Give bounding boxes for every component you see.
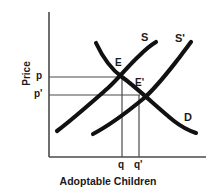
chart-canvas bbox=[0, 0, 216, 194]
y-tick-label-p: p bbox=[36, 71, 42, 81]
x-tick-label-q: q bbox=[118, 160, 124, 170]
supply-curve-label: S bbox=[141, 32, 148, 43]
demand-curve-label: D bbox=[184, 112, 192, 123]
y-axis-title: Price bbox=[21, 54, 32, 94]
x-tick-label-q-prime: q' bbox=[134, 160, 143, 170]
y-tick-label-p-prime: p' bbox=[34, 89, 43, 99]
x-axis-title: Adoptable Children bbox=[0, 175, 216, 187]
supply-demand-diagram: Price Adoptable Children p p' q q' S S' … bbox=[0, 0, 216, 194]
equilibrium-label-e-prime: E' bbox=[135, 78, 144, 88]
equilibrium-label-e: E bbox=[115, 58, 122, 68]
supply-shifted-curve-label: S' bbox=[175, 33, 185, 44]
